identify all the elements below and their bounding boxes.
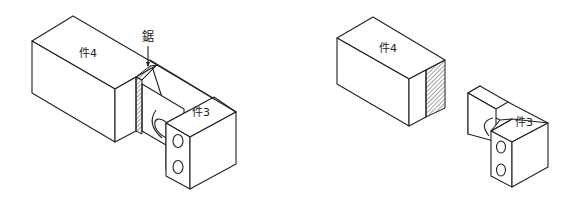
saw-kerf (136, 77, 142, 134)
assembled-view (32, 16, 236, 189)
part-3-label-exploded: 件3 (515, 117, 533, 128)
part-4-label-exploded: 件4 (379, 43, 397, 54)
exploded-view (337, 17, 548, 187)
part-3-assembled (142, 60, 236, 189)
technical-drawing (0, 0, 576, 206)
saw-callout-label: 鋸 (142, 31, 154, 43)
sawn-face (426, 60, 445, 117)
part-4-exploded (337, 17, 445, 126)
part-3-label: 件3 (192, 107, 210, 118)
part-3-exploded (468, 86, 548, 187)
part-4-label: 件4 (79, 48, 97, 59)
